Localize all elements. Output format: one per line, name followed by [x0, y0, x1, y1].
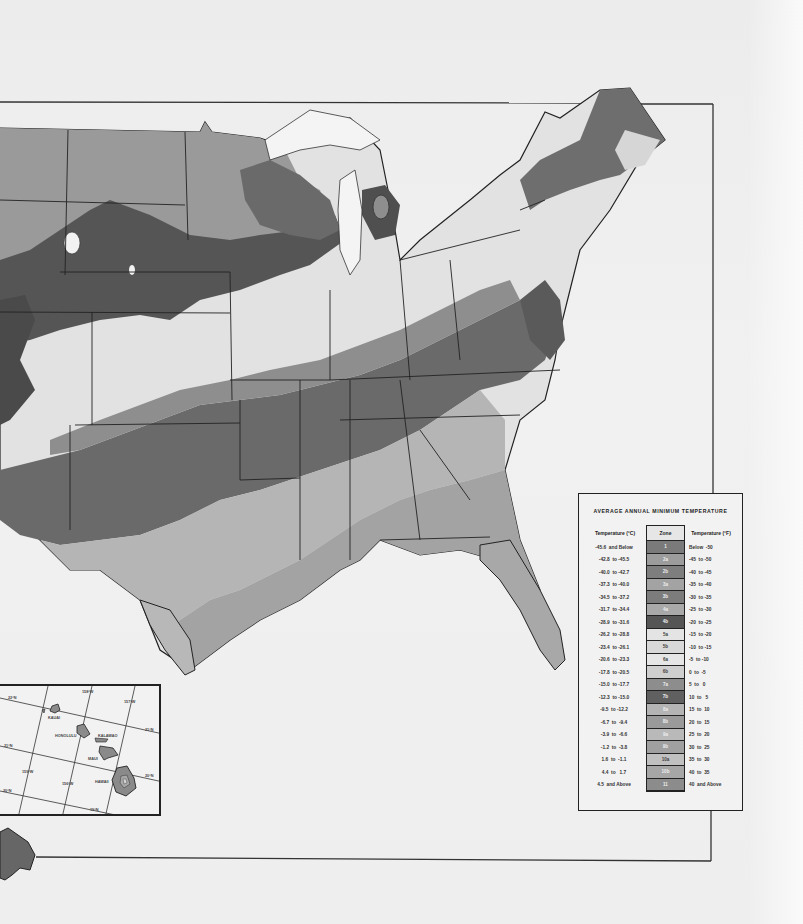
- niihau-island: [42, 709, 45, 713]
- legend-celsius-range: -12.3 to -15.0: [583, 691, 645, 704]
- legend-fahrenheit-range: 0 to -5: [685, 666, 745, 679]
- legend-zone-swatch: 2a: [647, 554, 684, 566]
- legend-zone-swatch: 8a: [647, 704, 684, 716]
- hawaii-inset: KAUAI HONOLULU KALAWAO MAUI HAWAII 22°N …: [0, 684, 161, 816]
- legend-title: AVERAGE ANNUAL MINIMUM TEMPERATURE: [579, 508, 742, 514]
- legend-fahrenheit-range: 40 and Above: [685, 779, 745, 792]
- label-kalawao: KALAWAO: [98, 734, 117, 738]
- legend-fahrenheit-range: -35 to -40: [685, 579, 745, 592]
- legend-zone-swatch: 6b: [647, 666, 684, 678]
- label-lon-159: 159°W: [22, 770, 33, 774]
- hawaii-map: [0, 686, 161, 816]
- legend-fahrenheit-range: -15 to -20: [685, 629, 745, 642]
- legend-fahrenheit-range: 5 to 0: [685, 679, 745, 692]
- legend-celsius-range: -42.8 to -45.5: [583, 554, 645, 567]
- legend-fahrenheit-range: 35 to 30: [685, 754, 745, 767]
- legend-celsius-range: -17.8 to -20.5: [583, 666, 645, 679]
- legend-zone-swatch: 10a: [647, 754, 684, 766]
- legend-box: AVERAGE ANNUAL MINIMUM TEMPERATURE Tempe…: [578, 493, 743, 811]
- legend-fahrenheit-range: 25 to 20: [685, 729, 745, 742]
- legend-zone-swatch: 2b: [647, 566, 684, 578]
- legend-zone-swatch: 9b: [647, 741, 684, 753]
- label-lat-20: 20°N: [3, 789, 11, 793]
- legend-fahrenheit-range: -10 to -15: [685, 641, 745, 654]
- label-lat-19: 19°N: [90, 808, 98, 812]
- legend-celsius-range: -23.4 to -26.1: [583, 641, 645, 654]
- legend-celsius-range: -40.0 to -42.7: [583, 566, 645, 579]
- legend-fahrenheit-range: -45 to -50: [685, 554, 745, 567]
- legend-fahrenheit-range: Below -50: [685, 541, 745, 554]
- label-lon-156: 156°W: [62, 782, 73, 786]
- legend-zone-swatch: 7a: [647, 679, 684, 691]
- legend-celsius-range: -20.6 to -23.3: [583, 654, 645, 667]
- legend-zone-swatch: 7b: [647, 691, 684, 703]
- legend-header-fahrenheit: Temperature (°F): [683, 530, 739, 536]
- legend-celsius-range: -6.7 to -9.4: [583, 716, 645, 729]
- legend-celsius-range: -34.5 to -37.2: [583, 591, 645, 604]
- legend-fahrenheit-range: -25 to -30: [685, 604, 745, 617]
- legend-zone-swatch: 11: [647, 779, 684, 791]
- legend-celsius-range: -45.6 and Below: [583, 541, 645, 554]
- label-lat-21-right: 21°N: [145, 728, 153, 732]
- legend-zone-swatch: 3b: [647, 591, 684, 603]
- legend-celsius-range: -3.9 to -6.6: [583, 729, 645, 742]
- legend-celsius-range: -9.5 to -12.2: [583, 704, 645, 717]
- legend-celsius-range: -31.7 to -34.4: [583, 604, 645, 617]
- legend-fahrenheit-range: 20 to 15: [685, 716, 745, 729]
- label-kauai: KAUAI: [48, 716, 60, 720]
- legend-celsius-range: -1.2 to -3.8: [583, 741, 645, 754]
- legend-celsius-range: -15.0 to -17.7: [583, 679, 645, 692]
- legend-fahrenheit-range: 15 to 10: [685, 704, 745, 717]
- legend-header-zone: Zone: [647, 526, 684, 540]
- legend-header-celsius: Temperature (°C): [585, 530, 645, 536]
- legend-celsius-range: 1.6 to -1.1: [583, 754, 645, 767]
- legend-celsius-range: 4.5 and Above: [583, 779, 645, 792]
- legend-celsius-range: -28.9 to -31.6: [583, 616, 645, 629]
- legend-zone-swatch: 1: [647, 541, 684, 553]
- legend-zone-swatch: 6a: [647, 654, 684, 666]
- legend-fahrenheit-range: 30 to 25: [685, 741, 745, 754]
- legend-fahrenheit-range: -30 to -35: [685, 591, 745, 604]
- label-lat-21: 21°N: [4, 744, 12, 748]
- legend-zone-swatch: 5b: [647, 641, 684, 653]
- hawaii-graticule: [0, 686, 161, 816]
- legend-celsius-range: -37.3 to -40.0: [583, 579, 645, 592]
- legend-zone-column: Zone 12a2b3a3b4a4b5a5b6a6b7a7b8a8b9a9b10…: [646, 525, 685, 792]
- legend-zone-swatch: 3a: [647, 579, 684, 591]
- label-lat-22: 22°N: [8, 696, 16, 700]
- legend-fahrenheit-range: -40 to -45: [685, 566, 745, 579]
- label-honolulu: HONOLULU: [55, 734, 77, 738]
- legend-zone-swatch: 8b: [647, 716, 684, 728]
- label-hawaii: HAWAII: [95, 780, 109, 784]
- oahu-island: [77, 724, 90, 738]
- legend-fahrenheit-range: 40 to 35: [685, 766, 745, 779]
- legend-fahrenheit-range: -5 to -10: [685, 654, 745, 667]
- label-lon-158: 158°W: [82, 690, 93, 694]
- legend-celsius-range: 4.4 to 1.7: [583, 766, 645, 779]
- legend-fahrenheit-range: -20 to -25: [685, 616, 745, 629]
- legend-zone-swatch: 4a: [647, 604, 684, 616]
- legend-zone-swatch: 5a: [647, 629, 684, 641]
- legend-zone-swatch: 4b: [647, 616, 684, 628]
- legend-fahrenheit-range: 10 to 5: [685, 691, 745, 704]
- alaska-fragment: [0, 828, 35, 880]
- legend-zone-swatch: 10b: [647, 766, 684, 778]
- legend-celsius-range: -26.2 to -28.8: [583, 629, 645, 642]
- label-lon-157: 157°W: [124, 700, 135, 704]
- label-lat-20-right: 20°N: [145, 774, 153, 778]
- maui-island: [99, 746, 118, 760]
- kauai-island: [50, 704, 60, 713]
- label-maui: MAUI: [88, 757, 98, 761]
- scan-edge: [748, 0, 803, 924]
- molokai-island: [95, 738, 108, 742]
- legend-zone-swatch: 9a: [647, 729, 684, 741]
